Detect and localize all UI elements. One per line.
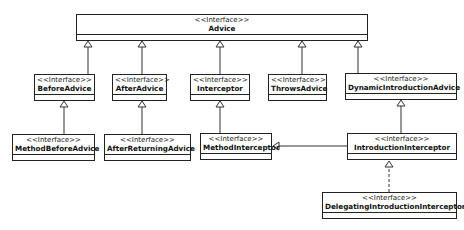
class-name: Advice bbox=[79, 24, 365, 33]
stereotype-label: <<Interface>> bbox=[350, 135, 454, 143]
class-name: AfterReturningAdvice bbox=[107, 144, 188, 153]
class-name: BeforeAdvice bbox=[37, 84, 92, 93]
generalization-arrow-icon bbox=[298, 41, 306, 47]
class-name: IntroductionInterceptor bbox=[350, 143, 454, 152]
class-before-advice: <<Interface>>BeforeAdvice bbox=[34, 74, 95, 101]
class-throws-advice: <<Interface>>ThrowsAdvice bbox=[268, 74, 327, 101]
stereotype-label: <<Interface>> bbox=[79, 16, 365, 24]
class-method-before-advice: <<Interface>>MethodBeforeAdvice bbox=[12, 134, 95, 161]
stereotype-label: <<Interface>> bbox=[107, 136, 188, 144]
stereotype-label: <<Interface>> bbox=[37, 76, 92, 84]
stereotype-label: <<Interface>> bbox=[325, 194, 454, 202]
class-interceptor: <<Interface>>Interceptor bbox=[190, 74, 250, 101]
generalization-arrow-icon bbox=[216, 41, 224, 47]
generalization-arrow-icon bbox=[138, 101, 146, 107]
stereotype-label: <<Interface>> bbox=[115, 76, 164, 84]
class-name: ThrowsAdvice bbox=[271, 84, 324, 93]
realization-arrow-icon bbox=[385, 161, 393, 167]
generalization-arrow-icon bbox=[216, 101, 224, 107]
generalization-arrow-icon bbox=[60, 101, 68, 107]
class-name: Interceptor bbox=[193, 84, 247, 93]
stereotype-label: <<Interface>> bbox=[193, 76, 247, 84]
class-introduction-interceptor: <<Interface>>IntroductionInterceptor bbox=[347, 133, 457, 160]
stereotype-label: <<Interface>> bbox=[271, 76, 324, 84]
class-name: MethodInterceptor bbox=[203, 143, 269, 152]
class-name: DelegatingIntroductionInterceptor bbox=[325, 202, 454, 211]
class-method-interceptor: <<Interface>>MethodInterceptor bbox=[200, 133, 272, 160]
class-dynamic-introduction-advice: <<Interface>>DynamicIntroductionAdvice bbox=[345, 73, 457, 100]
class-delegating-introduction-interceptor: <<Interface>>DelegatingIntroductionInter… bbox=[322, 192, 457, 219]
generalization-arrow-icon bbox=[138, 41, 146, 47]
stereotype-label: <<Interface>> bbox=[348, 75, 454, 83]
class-after-advice: <<Interface>>AfterAdvice bbox=[112, 74, 167, 101]
class-after-returning-advice: <<Interface>>AfterReturningAdvice bbox=[104, 134, 191, 161]
generalization-arrow-icon bbox=[354, 41, 362, 47]
generalization-arrow-icon bbox=[84, 41, 92, 47]
uml-diagram-canvas: <<Interface>>Advice <<Interface>>BeforeA… bbox=[0, 0, 464, 230]
stereotype-label: <<Interface>> bbox=[15, 136, 92, 144]
class-name: MethodBeforeAdvice bbox=[15, 144, 92, 153]
class-name: DynamicIntroductionAdvice bbox=[348, 83, 454, 92]
generalization-arrow-icon bbox=[397, 100, 405, 106]
stereotype-label: <<Interface>> bbox=[203, 135, 269, 143]
class-name: AfterAdvice bbox=[115, 84, 164, 93]
class-advice: <<Interface>>Advice bbox=[76, 14, 368, 41]
